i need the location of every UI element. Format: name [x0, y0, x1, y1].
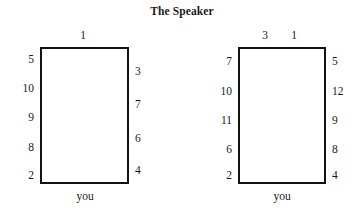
seat-number-right: 5: [332, 56, 338, 68]
seat-number-right: 12: [332, 86, 344, 98]
seat-number-right: 4: [332, 170, 338, 182]
seat-number-right: 4: [135, 165, 141, 177]
seat-number-top: 3: [262, 30, 268, 42]
seat-number-right: 3: [135, 66, 141, 78]
seat-number-left: 10: [221, 86, 233, 98]
seat-number-right: 6: [135, 133, 141, 145]
seat-number-left: 5: [28, 54, 34, 66]
seat-number-right: 8: [332, 144, 338, 156]
seat-number-left: 11: [221, 115, 232, 127]
seat-number-right: 7: [135, 99, 141, 111]
seat-number-left: 7: [226, 56, 232, 68]
seat-number-top: 1: [291, 30, 297, 42]
seating-rectangle: [40, 47, 129, 184]
seat-number-left: 6: [226, 144, 232, 156]
seat-number-right: 9: [332, 115, 338, 127]
seat-number-left: 9: [28, 112, 34, 124]
seating-rectangle: [238, 47, 326, 184]
you-label: you: [76, 190, 93, 202]
right-seating-diagram: you 317101162512984: [182, 0, 364, 221]
seat-number-left: 10: [23, 83, 35, 95]
you-label: you: [273, 190, 290, 202]
seat-number-left: 8: [28, 142, 34, 154]
left-seating-diagram: you 15109823764: [0, 0, 182, 221]
seat-number-left: 2: [226, 170, 232, 182]
seat-number-top: 1: [80, 30, 86, 42]
seat-number-left: 2: [28, 170, 34, 182]
